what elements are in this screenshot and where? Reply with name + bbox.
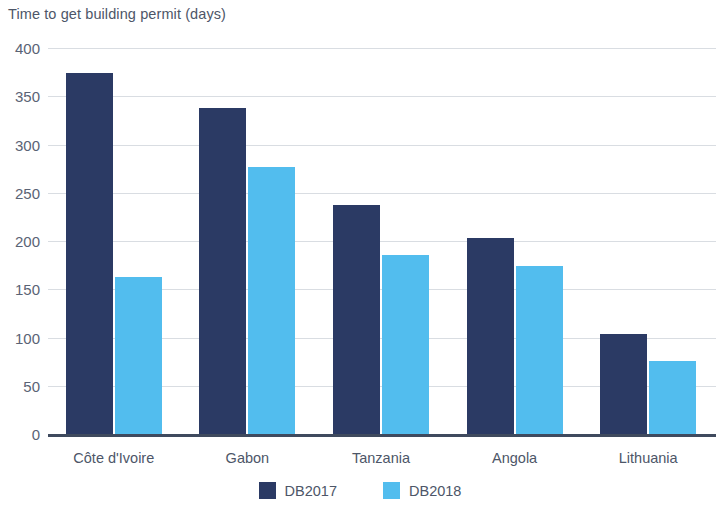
legend-label-db2018: DB2018 [409,483,461,499]
x-axis-label-0: Côte d'Ivoire [73,450,154,466]
legend-item-db2017: DB2017 [259,482,337,499]
bar-db2018-0 [115,277,162,434]
y-axis-tick-label: 150 [0,281,40,298]
x-axis-label-4: Lithuania [619,450,678,466]
gridline [48,241,716,242]
x-axis-label-1: Gabon [226,450,270,466]
y-axis-tick-label: 400 [0,40,40,57]
y-axis-tick-label: 100 [0,329,40,346]
legend-label-db2017: DB2017 [285,483,337,499]
gridline [48,145,716,146]
bar-db2017-1 [199,108,246,434]
legend-swatch-db2018 [383,482,400,499]
chart-legend: DB2017 DB2018 [0,482,720,499]
legend-swatch-db2017 [259,482,276,499]
bar-db2017-4 [600,334,647,434]
gridline [48,96,716,97]
bar-db2018-1 [248,167,295,434]
y-axis-tick-label: 250 [0,184,40,201]
chart-title: Time to get building permit (days) [8,6,226,22]
bar-db2017-3 [467,238,514,434]
x-axis-label-3: Angola [492,450,537,466]
gridline [48,48,716,49]
bar-db2017-0 [66,73,113,434]
y-axis-tick-label: 0 [0,426,40,443]
bar-db2018-2 [382,255,429,434]
bar-db2017-2 [333,205,380,434]
x-axis-label-2: Tanzania [352,450,410,466]
x-axis-line [48,434,716,437]
plot-area: 050100150200250300350400 [48,48,716,434]
legend-item-db2018: DB2018 [383,482,461,499]
bar-db2018-3 [516,266,563,434]
y-axis-tick-label: 350 [0,88,40,105]
bar-db2018-4 [649,361,696,434]
y-axis-tick-label: 300 [0,136,40,153]
gridline [48,193,716,194]
bar-chart: Time to get building permit (days) 05010… [0,0,720,508]
y-axis-tick-label: 50 [0,377,40,394]
y-axis-tick-label: 200 [0,233,40,250]
